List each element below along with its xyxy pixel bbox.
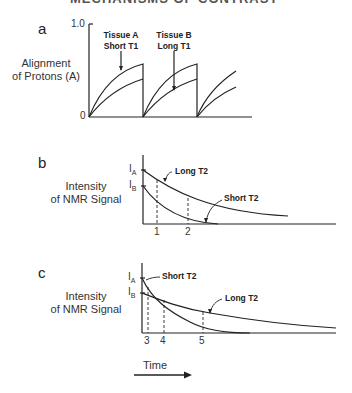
panel-a-y-top-tick: 1.0 [71, 18, 85, 29]
curve-tissue-b-cycle2 [143, 79, 197, 117]
panel-b-ib-label: IB [129, 179, 136, 192]
label-short-t2-c: Short T2 [162, 271, 196, 282]
panel-b-y-label: Intensity of NMR Signal [42, 180, 130, 206]
panel-b-letter: b [38, 154, 46, 171]
panel-a-y-label: Alignment of Protons (A) [10, 57, 82, 83]
time-axis-label: Time [143, 359, 167, 371]
panel-b-ia-label: IA [129, 163, 136, 176]
panel-c-tick-4: 4 [160, 335, 166, 346]
curve-long-t2-b [143, 170, 288, 216]
panel-c-tick-3: 3 [144, 335, 150, 346]
panel-b-plot [141, 155, 336, 224]
panel-c-letter: c [38, 264, 46, 281]
annotation-tissue-a: Tissue A Short T1 [98, 30, 144, 52]
annotation-tissue-b: Tissue B Long T1 [151, 30, 197, 52]
panel-c-y-label: Intensity of NMR Signal [42, 290, 130, 316]
panel-a-y-zero-tick: 0 [80, 110, 86, 121]
label-short-t2-b: Short T2 [224, 193, 258, 204]
panel-c-tick-5: 5 [199, 335, 205, 346]
curve-tissue-a-cycle1 [89, 64, 143, 117]
panel-c-ib-label: IB [128, 286, 135, 299]
curve-short-t2-c [142, 278, 250, 333]
label-long-t2-b: Long T2 [175, 166, 208, 177]
curve-tissue-a-cycle2 [143, 64, 197, 117]
curve-tissue-b-cycle3 [197, 87, 236, 117]
panel-c-ia-label: IA [128, 271, 135, 284]
leader-long-t2-c [210, 299, 222, 313]
panel-b-tick-2: 2 [185, 226, 191, 237]
label-long-t2-c: Long T2 [225, 293, 258, 304]
panel-b-tick-1: 1 [154, 226, 160, 237]
panel-a-letter: a [38, 20, 46, 37]
leader-short-t2-c [146, 277, 160, 280]
curve-tissue-b-cycle1 [89, 79, 143, 117]
